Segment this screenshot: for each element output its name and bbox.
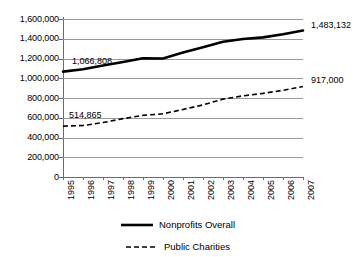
data-point-label: 1,066,808 xyxy=(72,57,112,66)
x-axis-tick-label: 1998 xyxy=(127,180,136,200)
y-axis-tick-mark xyxy=(59,157,63,158)
x-axis-tick-mark xyxy=(263,177,264,180)
legend-swatch-dashed xyxy=(125,242,159,252)
x-axis-tick-mark xyxy=(163,177,164,180)
y-axis-tick-mark xyxy=(59,138,63,139)
x-axis-tick-mark xyxy=(123,177,124,180)
legend-label: Nonprofits Overall xyxy=(159,220,235,230)
data-point-label: 1,483,132 xyxy=(311,21,351,30)
y-axis-tick-mark xyxy=(59,98,63,99)
line-chart: 1,600,0001,400,0001,200,0001,000,000800,… xyxy=(0,0,355,257)
x-axis-tick-label: 2001 xyxy=(187,180,196,200)
y-axis-tick-label: 1,400,000 xyxy=(1,34,59,43)
x-axis-tick-mark xyxy=(63,177,64,180)
y-axis-tick-label: 1,200,000 xyxy=(1,54,59,63)
y-axis-tick-mark xyxy=(59,19,63,20)
x-axis-tick-mark xyxy=(83,177,84,180)
y-axis-tick-label: 0 xyxy=(1,173,59,182)
y-axis-tick-label: 200,000 xyxy=(1,153,59,162)
y-axis-tick-label: 1,600,000 xyxy=(1,15,59,24)
x-axis-tick-label: 2007 xyxy=(307,180,316,200)
x-axis-tick-label: 2000 xyxy=(167,180,176,200)
legend-item-public-charities: Public Charities xyxy=(0,241,355,253)
y-axis-tick-mark xyxy=(59,59,63,60)
x-axis-tick-labels: 1995199619971998199920002001200220032004… xyxy=(63,180,303,220)
data-point-label: 514,865 xyxy=(69,111,102,120)
x-axis-tick-label: 2004 xyxy=(247,180,256,200)
y-axis-tick-mark xyxy=(59,177,63,178)
x-axis-tick-label: 2002 xyxy=(207,180,216,200)
x-axis-tick-mark xyxy=(223,177,224,180)
series-layer xyxy=(63,19,303,177)
x-axis-tick-label: 1997 xyxy=(107,180,116,200)
data-point-label: 917,000 xyxy=(311,76,344,85)
x-axis-tick-label: 1996 xyxy=(87,180,96,200)
y-axis-tick-mark xyxy=(59,39,63,40)
y-axis-tick-label: 1,000,000 xyxy=(1,74,59,83)
plot-area xyxy=(63,19,303,177)
x-axis-tick-label: 2005 xyxy=(267,180,276,200)
x-axis-tick-mark xyxy=(103,177,104,180)
y-axis-tick-label: 600,000 xyxy=(1,113,59,122)
x-axis-tick-label: 1995 xyxy=(67,180,76,200)
x-axis-tick-mark xyxy=(303,177,304,180)
y-axis-tick-mark xyxy=(59,118,63,119)
x-axis-tick-label: 1999 xyxy=(147,180,156,200)
x-axis-tick-mark xyxy=(143,177,144,180)
chart-legend: Nonprofits Overall Public Charities xyxy=(0,219,355,257)
y-axis-tick-mark xyxy=(59,78,63,79)
legend-swatch-solid xyxy=(120,220,154,230)
y-axis-tick-label: 800,000 xyxy=(1,94,59,103)
legend-label: Public Charities xyxy=(164,242,230,252)
x-axis-tick-mark xyxy=(183,177,184,180)
x-axis-tick-label: 2003 xyxy=(227,180,236,200)
y-axis-tick-label: 400,000 xyxy=(1,133,59,142)
x-axis-tick-label: 2006 xyxy=(287,180,296,200)
x-axis-tick-mark xyxy=(203,177,204,180)
line-public-charities xyxy=(63,86,303,126)
x-axis-tick-mark xyxy=(243,177,244,180)
legend-item-nonprofits-overall: Nonprofits Overall xyxy=(0,219,355,231)
x-axis-tick-mark xyxy=(283,177,284,180)
